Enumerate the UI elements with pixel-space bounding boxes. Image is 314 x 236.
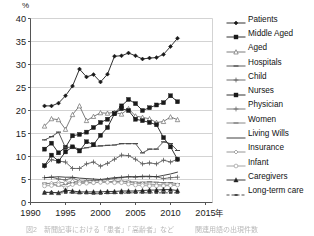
data-point-marker (113, 192, 116, 194)
data-point-marker (148, 192, 151, 194)
data-series (43, 36, 180, 108)
legend-item-label: Caregivers (246, 172, 288, 181)
data-point-marker (57, 183, 61, 187)
data-point-marker (92, 181, 96, 185)
data-point-marker (234, 164, 238, 168)
data-point-marker (50, 184, 54, 188)
y-tick-label: 25 (16, 83, 26, 93)
data-point-marker (85, 140, 89, 144)
data-point-marker (127, 51, 131, 55)
x-tick-label: 1995 (55, 208, 75, 218)
legend-item-hospitals[interactable]: Hospitals (226, 55, 314, 69)
figure-caption-strip: 図2 新聞記事における「患者」「高齢者」など 関連用語の出現件数 (0, 224, 314, 236)
legend-key-swatch (226, 157, 246, 167)
y-tick-label: 30 (16, 60, 26, 70)
data-point-marker (77, 104, 81, 108)
legend-key-swatch (226, 14, 246, 24)
data-point-marker (155, 184, 159, 188)
legend-item-middle-aged[interactable]: Middle Aged (226, 26, 314, 40)
legend-item-nurses[interactable]: Nurses (226, 83, 314, 97)
legend-item-patients[interactable]: Patients (226, 12, 314, 26)
legend-item-label: Aged (246, 43, 267, 52)
data-point-marker (92, 126, 96, 130)
data-series (42, 104, 179, 132)
data-point-marker (148, 184, 152, 188)
data-point-marker (78, 182, 82, 186)
data-point-marker (127, 192, 130, 194)
data-point-marker (162, 136, 166, 140)
legend-item-label: Long-term care (246, 186, 304, 195)
data-point-marker (120, 107, 124, 111)
data-point-marker (155, 56, 159, 60)
data-point-marker (120, 181, 124, 185)
x-axis-unit-label: 年 (215, 208, 223, 218)
data-point-marker (99, 180, 103, 184)
legend-item-label: Child (246, 72, 267, 81)
data-point-marker (176, 100, 180, 104)
legend-item-label: Hospitals (246, 58, 282, 67)
data-point-marker (148, 56, 152, 60)
data-point-marker (169, 192, 172, 194)
data-point-marker (106, 192, 109, 194)
y-tick-label: 5 (21, 175, 26, 185)
data-point-marker (169, 145, 173, 149)
legend-item-physician[interactable]: Physician (226, 98, 314, 112)
legend-item-living-wills[interactable]: Living Wills (226, 126, 314, 140)
legend-item-label: Middle Aged (246, 29, 293, 38)
legend-item-long-term-care[interactable]: Long-term care (226, 184, 314, 198)
x-tick-label: 2000 (90, 208, 110, 218)
data-point-marker (92, 193, 95, 195)
data-point-marker (78, 132, 82, 136)
legend-key-swatch (226, 100, 246, 110)
figure-caption-text: 図2 新聞記事における「患者」「高齢者」など 関連用語の出現件数 (0, 224, 314, 236)
data-point-marker (50, 191, 53, 193)
data-point-marker (113, 181, 117, 185)
data-point-marker (43, 164, 47, 168)
legend-key-swatch (226, 86, 246, 96)
legend-key-swatch (226, 186, 246, 196)
x-tick-label: 1990 (20, 208, 40, 218)
data-point-marker (84, 118, 88, 122)
legend-key-swatch (226, 114, 246, 124)
data-point-marker (176, 157, 180, 161)
data-point-marker (99, 120, 103, 124)
legend-item-label: Infant (246, 158, 269, 167)
legend-item-insurance[interactable]: Insurance (226, 141, 314, 155)
data-point-marker (85, 192, 88, 194)
data-point-marker (134, 117, 138, 121)
data-point-marker (176, 192, 179, 194)
data-point-marker (43, 184, 47, 188)
data-point-marker (234, 21, 238, 25)
data-point-marker (155, 103, 159, 107)
data-point-marker (43, 191, 46, 193)
legend-item-women[interactable]: Women (226, 112, 314, 126)
data-point-marker (85, 130, 89, 134)
data-point-marker (134, 183, 138, 187)
series-line (45, 172, 178, 179)
data-point-marker (91, 114, 95, 118)
y-tick-label: 15 (16, 129, 26, 139)
data-point-marker (92, 143, 96, 147)
legend-item-label: Nurses (246, 86, 274, 95)
data-point-marker (85, 181, 89, 185)
legend-item-child[interactable]: Child (226, 69, 314, 83)
data-point-marker (120, 192, 123, 194)
data-point-marker (106, 126, 110, 130)
x-tick-label: 2010 (160, 208, 180, 218)
data-point-marker (169, 94, 173, 98)
data-point-marker (127, 109, 131, 113)
legend-item-infant[interactable]: Infant (226, 155, 314, 169)
data-point-marker (169, 184, 173, 188)
legend-item-caregivers[interactable]: Caregivers (226, 169, 314, 183)
y-tick-label: 40 (16, 14, 26, 24)
data-point-marker (176, 183, 180, 187)
x-tick-label: 2015 (195, 208, 215, 218)
data-point-marker (168, 115, 172, 119)
data-point-marker (120, 54, 124, 58)
data-point-marker (148, 106, 152, 110)
data-point-marker (99, 133, 103, 137)
legend-item-aged[interactable]: Aged (226, 41, 314, 55)
data-point-marker (234, 194, 237, 196)
data-point-marker (141, 184, 145, 188)
y-tick-label: 10 (16, 152, 26, 162)
